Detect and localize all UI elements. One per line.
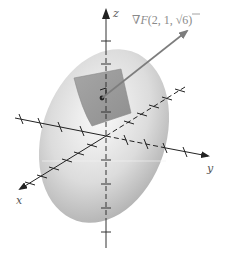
gradient-label: ∇F(2, 1, √6) xyxy=(132,13,192,27)
nabla-symbol: ∇ xyxy=(132,13,140,27)
z-axis-label: z xyxy=(112,7,119,20)
x-axis-label: x xyxy=(16,194,23,207)
z-arrow-icon xyxy=(102,8,110,19)
y-axis-label: y xyxy=(206,162,214,175)
z-axis xyxy=(101,8,111,50)
ellipsoid-diagram: z y x ∇F(2, 1, √6) xyxy=(0,0,228,260)
gradient-close: ) xyxy=(188,13,192,27)
gradient-args: (2, 1, xyxy=(148,13,176,27)
